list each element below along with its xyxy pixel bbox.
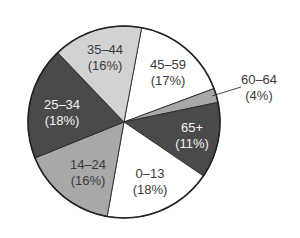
label-35-44-pct: (16%) <box>88 58 123 73</box>
label-45-59-name: 45–59 <box>150 57 186 72</box>
label-14-24-pct: (16%) <box>71 173 106 188</box>
label-60-64: 60–64 (4%) <box>241 72 277 103</box>
label-45-59-pct: (17%) <box>151 73 186 88</box>
label-60-64-name: 60–64 <box>241 72 277 87</box>
label-25-34: 25–34 (18%) <box>44 97 80 128</box>
label-0-13-pct: (18%) <box>133 182 168 197</box>
label-0-13-name: 0–13 <box>136 166 165 181</box>
label-65-plus-pct: (11%) <box>175 136 209 151</box>
label-25-34-name: 25–34 <box>44 97 80 112</box>
label-45-59: 45–59 (17%) <box>150 57 186 88</box>
leader-line-60-64 <box>212 87 241 96</box>
label-65-plus-name: 65+ <box>181 120 203 135</box>
label-25-34-pct: (18%) <box>45 113 80 128</box>
label-14-24-name: 14–24 <box>70 157 106 172</box>
label-35-44: 35–44 (16%) <box>87 42 123 73</box>
label-60-64-pct: (4%) <box>245 88 272 103</box>
label-35-44-name: 35–44 <box>87 42 123 57</box>
label-14-24: 14–24 (16%) <box>70 157 106 188</box>
label-0-13: 0–13 (18%) <box>133 166 168 197</box>
pie-chart: 45–59 (17%) 60–64 (4%) 65+ (11%) 0–13 (1… <box>0 0 300 238</box>
